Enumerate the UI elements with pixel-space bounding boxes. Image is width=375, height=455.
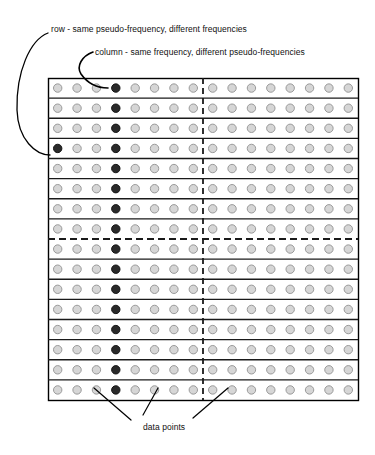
data-point [305, 164, 313, 172]
data-point [267, 386, 275, 394]
data-point [189, 245, 197, 253]
data-point-highlighted [112, 366, 120, 374]
data-point [344, 124, 352, 132]
data-point [131, 285, 139, 293]
data-point [208, 285, 216, 293]
data-point [228, 144, 236, 152]
data-point [325, 305, 333, 313]
data-point [53, 265, 61, 273]
data-point [92, 225, 100, 233]
data-point [73, 345, 81, 353]
data-point [170, 265, 178, 273]
data-point [208, 325, 216, 333]
data-point [73, 84, 81, 92]
data-point [305, 386, 313, 394]
data-point [131, 164, 139, 172]
data-point [344, 184, 352, 192]
data-point [189, 164, 197, 172]
data-point [325, 245, 333, 253]
data-point [344, 345, 352, 353]
data-point [286, 104, 294, 112]
data-point [73, 124, 81, 132]
data-point [286, 345, 294, 353]
data-point-highlighted [112, 124, 120, 132]
data-point [286, 225, 294, 233]
data-point [170, 366, 178, 374]
data-point [131, 84, 139, 92]
data-point [92, 325, 100, 333]
data-point [247, 164, 255, 172]
data-point [53, 184, 61, 192]
data-point [305, 144, 313, 152]
data-point [189, 124, 197, 132]
data-point [53, 305, 61, 313]
data-point [305, 104, 313, 112]
data-point [247, 285, 255, 293]
data-point [189, 84, 197, 92]
data-point-highlighted [112, 164, 120, 172]
data-point [131, 305, 139, 313]
data-point [170, 84, 178, 92]
data-point [92, 104, 100, 112]
data-point [73, 265, 81, 273]
data-point [247, 386, 255, 394]
data-point [267, 305, 275, 313]
data-point [228, 245, 236, 253]
data-point [305, 325, 313, 333]
data-point [247, 184, 255, 192]
data-point [170, 345, 178, 353]
data-point [189, 265, 197, 273]
data-point [247, 205, 255, 213]
data-point [247, 325, 255, 333]
data-point [208, 144, 216, 152]
data-point [208, 164, 216, 172]
data-point [286, 265, 294, 273]
data-point [208, 366, 216, 374]
data-point [344, 104, 352, 112]
data-point-highlighted [112, 245, 120, 253]
data-point [228, 164, 236, 172]
data-point [228, 366, 236, 374]
data-point [305, 225, 313, 233]
data-point [150, 245, 158, 253]
data-point [344, 245, 352, 253]
data-point [150, 366, 158, 374]
data-point [131, 184, 139, 192]
data-point [325, 325, 333, 333]
data-point [131, 144, 139, 152]
data-point [73, 386, 81, 394]
data-point [247, 366, 255, 374]
data-point [53, 205, 61, 213]
data-point [286, 84, 294, 92]
leader-line-row [17, 33, 50, 155]
data-point [73, 225, 81, 233]
data-point [344, 225, 352, 233]
data-point [170, 305, 178, 313]
data-point [344, 386, 352, 394]
data-point [305, 305, 313, 313]
data-point [267, 225, 275, 233]
data-point [53, 225, 61, 233]
data-point [247, 104, 255, 112]
data-point [208, 225, 216, 233]
data-point [131, 124, 139, 132]
data-point [286, 285, 294, 293]
data-point [189, 305, 197, 313]
data-point [228, 386, 236, 394]
data-point [344, 144, 352, 152]
data-point [305, 245, 313, 253]
data-point [325, 265, 333, 273]
data-point [131, 104, 139, 112]
data-point [170, 205, 178, 213]
data-point [53, 245, 61, 253]
data-point [92, 265, 100, 273]
data-point [189, 205, 197, 213]
data-point [170, 104, 178, 112]
data-point [92, 366, 100, 374]
data-point [73, 245, 81, 253]
data-point [305, 265, 313, 273]
data-point [325, 205, 333, 213]
data-point [170, 124, 178, 132]
data-point [286, 325, 294, 333]
data-point [92, 305, 100, 313]
